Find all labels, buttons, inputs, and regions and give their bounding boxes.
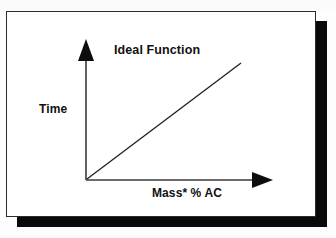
chart-title: Ideal Function — [114, 43, 200, 57]
scan-artifact — [0, 0, 336, 10]
y-axis-arrowhead-icon — [78, 39, 94, 61]
slide-frame: Ideal Function Time Mass* % AC — [6, 11, 316, 217]
ideal-function-line — [87, 63, 241, 179]
y-axis-label: Time — [39, 102, 67, 116]
x-axis-label: Mass* % AC — [152, 186, 222, 200]
x-axis-arrowhead-icon — [252, 172, 273, 188]
figure-root: Ideal Function Time Mass* % AC — [0, 0, 336, 238]
plot-area: Ideal Function Time Mass* % AC — [7, 12, 317, 218]
